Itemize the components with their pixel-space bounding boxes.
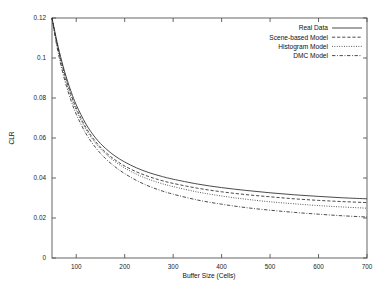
- x-axis-title: Buffer Size (Cells): [182, 272, 235, 280]
- x-tick-label: 500: [265, 263, 276, 270]
- x-axis-tick-labels: 100200300400500600700: [71, 263, 373, 270]
- x-tick-label: 300: [168, 263, 179, 270]
- x-tick-label: 200: [119, 263, 130, 270]
- legend-label-1: Scene-based Model: [269, 34, 328, 41]
- x-tick-label: 600: [313, 263, 324, 270]
- line-chart: 100200300400500600700 00.020.040.060.080…: [0, 0, 386, 291]
- legend-label-2: Histogram Model: [278, 43, 328, 51]
- chart-legend: Real DataScene-based ModelHistogram Mode…: [269, 24, 362, 59]
- chart-container: 100200300400500600700 00.020.040.060.080…: [0, 0, 386, 291]
- y-axis-tick-labels: 00.020.040.060.080.10.12: [34, 14, 47, 261]
- y-axis-title: CLR: [8, 131, 15, 144]
- legend-label-3: DMC Model: [293, 52, 328, 59]
- y-tick-label: 0: [42, 254, 46, 261]
- y-tick-label: 0.12: [34, 14, 47, 21]
- x-tick-label: 700: [362, 263, 373, 270]
- x-tick-label: 400: [216, 263, 227, 270]
- y-tick-label: 0.04: [34, 174, 47, 181]
- y-tick-label: 0.1: [37, 54, 46, 61]
- x-tick-label: 100: [71, 263, 82, 270]
- y-tick-label: 0.06: [34, 134, 47, 141]
- legend-label-0: Real Data: [299, 24, 329, 31]
- y-tick-label: 0.02: [34, 214, 47, 221]
- y-tick-label: 0.08: [34, 94, 47, 101]
